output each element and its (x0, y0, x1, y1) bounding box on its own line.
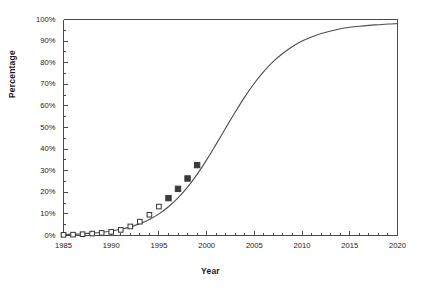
x-tick-label: 1985 (44, 241, 84, 250)
x-tick-label: 2020 (378, 241, 418, 250)
x-tick-label: 2015 (330, 241, 370, 250)
y-tick-label: 50% (16, 123, 56, 132)
y-tick-label: 60% (16, 101, 56, 110)
y-tick-label: 20% (16, 187, 56, 196)
y-tick-label: 30% (16, 166, 56, 175)
x-tick-label: 1995 (139, 241, 179, 250)
x-tick-label: 2010 (282, 241, 322, 250)
x-tick-label: 1990 (91, 241, 131, 250)
fitted-curve (64, 24, 398, 235)
y-tick-label: 100% (16, 15, 56, 24)
plot-frame (64, 20, 398, 236)
y-tick-label: 70% (16, 79, 56, 88)
x-tick-label: 2005 (234, 241, 274, 250)
chart-figure: Percentage Year 0%10%20%30%40%50%60%70%8… (0, 0, 421, 288)
y-tick-label: 10% (16, 209, 56, 218)
y-tick-label: 40% (16, 144, 56, 153)
y-tick-label: 80% (16, 58, 56, 67)
filled-square-markers (166, 162, 200, 200)
x-tick-label: 2000 (187, 241, 227, 250)
y-axis-ticks (64, 20, 69, 236)
y-tick-label: 0% (16, 231, 56, 240)
y-tick-label: 90% (16, 36, 56, 45)
